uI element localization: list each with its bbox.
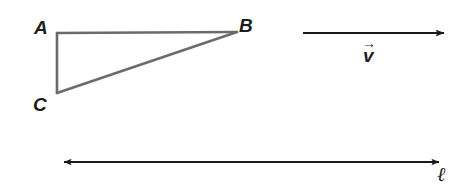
geometry-figure-canvas: A B C →v ℓ: [0, 0, 458, 185]
triangle-side-AB: [57, 32, 237, 33]
line-label-ell: ℓ: [437, 164, 445, 184]
triangle-side-CB: [57, 32, 237, 93]
vertex-label-c: C: [33, 95, 47, 114]
vertex-label-b: B: [239, 16, 253, 35]
triangle-ABC: [57, 32, 237, 93]
figure-vector-graphics: [0, 0, 458, 185]
vertex-label-a: A: [34, 18, 48, 37]
vector-accent-arrow-icon: →: [362, 36, 376, 50]
velocity-vector-label: →v: [363, 44, 374, 65]
